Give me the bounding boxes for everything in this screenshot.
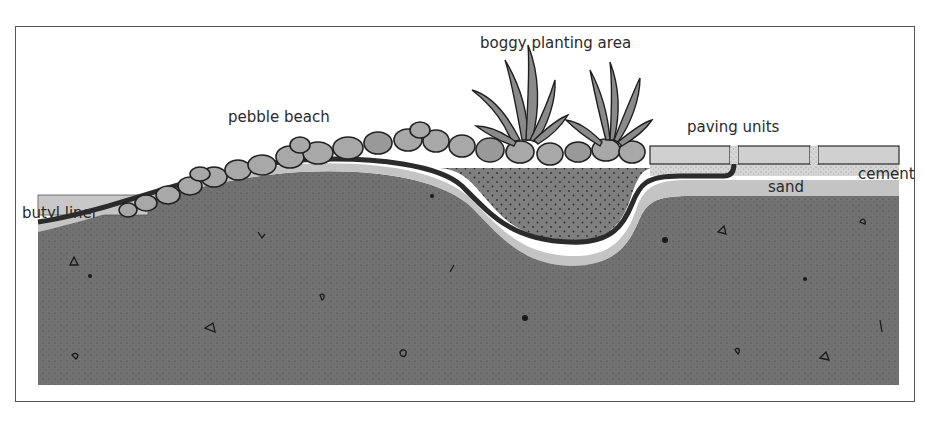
label-cement: cement <box>858 167 915 182</box>
label-boggy-planting-area: boggy planting area <box>480 36 631 51</box>
bog-plant-right <box>566 62 652 146</box>
cross-section-illustration <box>0 0 948 427</box>
label-sand: sand <box>768 180 804 195</box>
bog-plant-left <box>472 45 568 146</box>
label-butyl-liner: butyl liner <box>22 206 98 221</box>
label-pebble-beach: pebble beach <box>228 110 330 125</box>
paving-units <box>650 146 899 164</box>
label-paving-units: paving units <box>687 120 779 135</box>
